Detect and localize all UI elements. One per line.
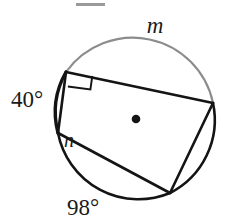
label-arc-m: m [147, 13, 164, 38]
chord-left-to-bottom [58, 133, 170, 193]
chord-topleft-to-right [66, 72, 213, 103]
label-arc-40: 40° [11, 87, 43, 112]
circle-geometry-diagram: m 40° n 98° [0, 0, 233, 223]
circle-center-dot [132, 115, 141, 124]
chord-right-to-bottom [170, 103, 213, 193]
geometry-figure-container: m 40° n 98° [0, 0, 233, 223]
top-crop-bar [76, 3, 105, 6]
label-angle-n: n [64, 129, 74, 151]
label-arc-98: 98° [67, 195, 99, 220]
arc-m-light [66, 38, 213, 103]
